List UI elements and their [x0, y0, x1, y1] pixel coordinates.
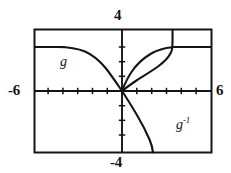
curve-label-g: g — [60, 55, 67, 69]
y-axis-max-label: 4 — [114, 8, 121, 23]
x-axis-max-label: 6 — [216, 83, 223, 98]
graph-figure: 4 -4 -6 6 g g-1 — [0, 0, 231, 173]
x-axis-min-label: -6 — [8, 83, 20, 98]
curve-label-g-inverse-exponent: -1 — [183, 115, 190, 125]
curve-label-g-inverse-base: g — [176, 117, 183, 132]
plot-area — [0, 0, 231, 173]
curve-label-g-inverse: g-1 — [176, 118, 190, 132]
y-axis-min-label: -4 — [110, 155, 122, 170]
